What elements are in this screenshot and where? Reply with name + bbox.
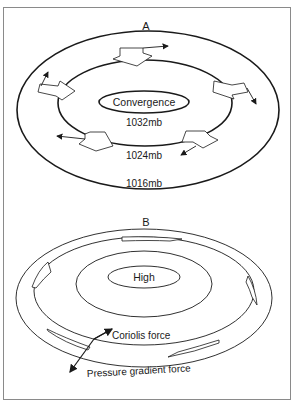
wind-arrow-right: [213, 81, 256, 104]
panel-b-label: B: [142, 216, 149, 228]
panel-b: B High Coriolis force Pressure gradient …: [16, 216, 272, 379]
flow-arrow-top: [122, 237, 182, 241]
isobar-label-1016: 1016mb: [126, 178, 163, 189]
isobar-label-1032: 1032mb: [126, 117, 163, 128]
isobar-outer: [16, 229, 272, 367]
wind-arrow-bottom-right: [181, 131, 218, 155]
panel-a-label: A: [142, 20, 150, 32]
wind-arrow-left: [38, 72, 75, 100]
wind-arrow-top: [113, 46, 168, 66]
flow-arrow-left: [32, 262, 51, 288]
coriolis-force-label: Coriolis force: [112, 330, 171, 341]
convergence-label: Convergence: [113, 96, 176, 108]
isobar-third: [76, 251, 212, 317]
high-label: High: [133, 271, 155, 283]
wind-arrow-bottom-left: [57, 132, 113, 151]
panel-a: A Convergence 1032mb 1024mb 1016mb: [17, 20, 279, 189]
isobar-second: [34, 237, 254, 345]
pressure-gradient-label: Pressure gradient force: [87, 363, 192, 379]
diagram: A Convergence 1032mb 1024mb 1016mb: [0, 0, 296, 405]
isobar-label-1024: 1024mb: [126, 150, 163, 161]
